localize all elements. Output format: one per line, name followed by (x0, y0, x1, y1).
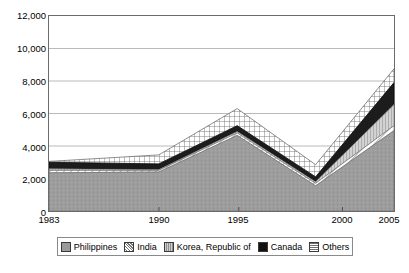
y-tick-label-2000: 2,000 (2, 175, 46, 184)
legend-label-others: Others (322, 242, 349, 252)
y-tick-label-10000: 10,000 (2, 44, 46, 53)
chart-figure: 12,000 10,000 8,000 6,000 4,000 2,000 0 (0, 0, 409, 273)
legend-item-others[interactable]: Others (309, 242, 349, 252)
chart-legend: Philippines India Korea, Republic of Can… (57, 237, 353, 256)
x-axis: 1983 1990 1995 2000 2005 (0, 214, 409, 230)
x-tick-label-1983: 1983 (29, 214, 69, 225)
legend-swatch-korea-icon (164, 242, 174, 252)
legend-item-india[interactable]: India (124, 242, 157, 252)
y-axis: 12,000 10,000 8,000 6,000 4,000 2,000 0 (0, 0, 46, 227)
legend-label-india: India (137, 242, 157, 252)
y-tick-label-6000: 6,000 (2, 110, 46, 119)
legend-swatch-india-icon (124, 242, 134, 252)
x-tick-label-1995: 1995 (218, 214, 258, 225)
plot-area (48, 15, 395, 212)
y-tick-label-12000: 12,000 (2, 11, 46, 20)
legend-label-canada: Canada (271, 242, 303, 252)
legend-item-korea[interactable]: Korea, Republic of (164, 242, 251, 252)
legend-label-korea: Korea, Republic of (177, 242, 251, 252)
x-tick-label-2000: 2000 (322, 214, 362, 225)
stacked-area-svg (49, 16, 394, 211)
x-tick-label-1990: 1990 (139, 214, 179, 225)
y-tick-label-4000: 4,000 (2, 143, 46, 152)
y-tick-label-8000: 8,000 (2, 77, 46, 86)
x-tick-label-2005: 2005 (369, 214, 409, 225)
legend-swatch-philippines-icon (61, 242, 71, 252)
legend-swatch-others-icon (309, 242, 319, 252)
legend-item-philippines[interactable]: Philippines (61, 242, 118, 252)
legend-swatch-canada-icon (258, 242, 268, 252)
legend-label-philippines: Philippines (74, 242, 118, 252)
legend-item-canada[interactable]: Canada (258, 242, 303, 252)
